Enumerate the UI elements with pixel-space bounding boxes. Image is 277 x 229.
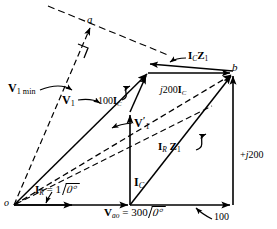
vertex-label-a: a (87, 14, 93, 25)
v1min-phasor (14, 28, 90, 205)
label-hundred: 100 (214, 212, 229, 222)
label-ir-z1: IR Z1 (158, 141, 181, 153)
hundred-leader (196, 208, 212, 219)
vertex-label-b: b (232, 62, 238, 73)
vertex-label-o: o (4, 198, 9, 208)
phasor-diagram-canvas: a b o V1 min V1 V′1 IR = 1 0° IC ICZ1 10… (0, 0, 277, 229)
label-v1-prime: V′1 (134, 116, 149, 131)
label-j200-ic: j200IC (160, 85, 186, 96)
label-hundred-ic: 100IC (98, 96, 121, 107)
ir-z1-leader (196, 134, 206, 150)
line-through-a (48, 6, 168, 55)
label-v1min: V1 min (8, 82, 35, 96)
label-ic-z1: ICZ1 (188, 50, 208, 62)
label-vao: Vao = 300 0° (104, 206, 164, 219)
hundred-ic-segment (130, 76, 146, 112)
v1min-leader (40, 86, 72, 90)
v1prime-leader (112, 123, 132, 128)
v1-leader (78, 99, 100, 103)
label-ir: IR = 1 0° (35, 183, 78, 196)
ic-z1-leader (170, 58, 186, 62)
label-ic: IC (134, 176, 144, 190)
label-v1: V1 (62, 94, 75, 108)
label-plus-j200: +j200 (240, 150, 263, 160)
ic-z1-segment (150, 64, 233, 71)
